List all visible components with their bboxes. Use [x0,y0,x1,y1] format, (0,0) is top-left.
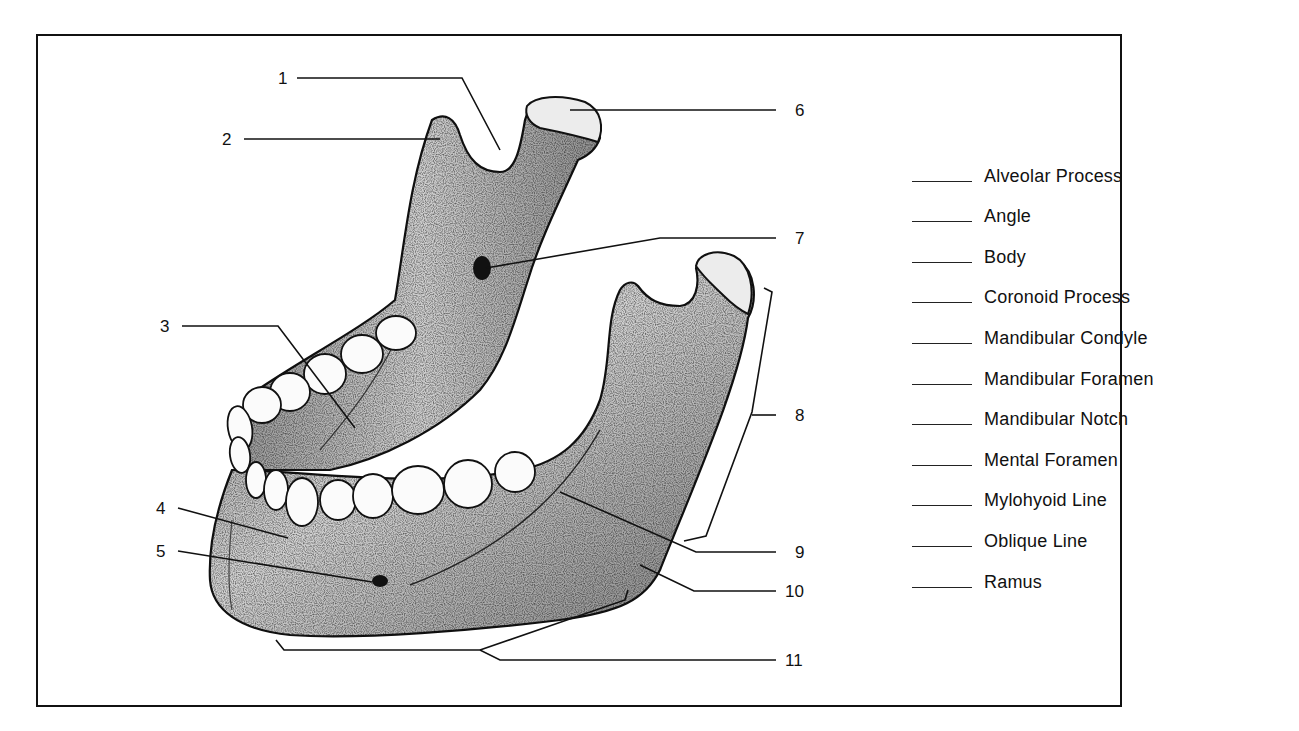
word-bank-item: Mandibular Condyle [912,312,1212,353]
callout-11: 11 [785,651,803,670]
callout-4: 4 [156,499,165,518]
term-label: Mental Foramen [984,449,1118,475]
callout-5: 5 [156,542,165,561]
answer-blank[interactable] [912,546,972,547]
term-label: Body [984,246,1026,272]
word-bank-item: Angle [912,191,1212,232]
word-bank-item: Body [912,231,1212,272]
word-bank-item: Mandibular Notch [912,394,1212,435]
word-bank-item: Alveolar Process [912,150,1212,191]
answer-blank[interactable] [912,505,972,506]
answer-blank[interactable] [912,587,972,588]
term-label: Alveolar Process [984,165,1122,191]
answer-blank[interactable] [912,302,972,303]
callout-6: 6 [795,101,804,120]
term-label: Mandibular Foramen [984,368,1154,394]
callout-10: 10 [785,582,804,601]
answer-blank[interactable] [912,465,972,466]
term-label: Angle [984,205,1031,231]
left-ramus [244,97,601,470]
term-label: Mandibular Notch [984,408,1128,434]
term-label: Ramus [984,571,1042,597]
word-bank-item: Mental Foramen [912,434,1212,475]
word-bank-item: Mylohyoid Line [912,475,1212,516]
callout-3: 3 [160,317,169,336]
word-bank-item: Oblique Line [912,515,1212,556]
word-bank: Alveolar Process Angle Body Coronoid Pro… [912,150,1212,597]
mental-foramen-hole [372,575,388,587]
term-label: Coronoid Process [984,286,1130,312]
callout-7: 7 [795,229,804,248]
word-bank-item: Coronoid Process [912,272,1212,313]
term-label: Mandibular Condyle [984,327,1148,353]
answer-blank[interactable] [912,424,972,425]
callout-2: 2 [222,130,231,149]
term-label: Mylohyoid Line [984,489,1107,515]
answer-blank[interactable] [912,343,972,344]
answer-blank[interactable] [912,181,972,182]
answer-blank[interactable] [912,262,972,263]
callout-8: 8 [795,406,804,425]
callout-1: 1 [278,69,287,88]
word-bank-item: Ramus [912,556,1212,597]
callout-9: 9 [795,543,804,562]
answer-blank[interactable] [912,384,972,385]
word-bank-item: Mandibular Foramen [912,353,1212,394]
term-label: Oblique Line [984,530,1087,556]
answer-blank[interactable] [912,221,972,222]
